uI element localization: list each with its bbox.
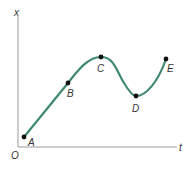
position-curve [24, 57, 166, 137]
point-b-marker [66, 81, 71, 86]
point-c-marker [99, 55, 104, 60]
point-d-marker [134, 94, 139, 99]
point-c-label: C [97, 63, 105, 74]
point-b-label: B [67, 88, 74, 99]
point-a-marker [22, 135, 27, 140]
point-e-label: E [167, 63, 174, 74]
y-axis-label: x [13, 7, 20, 18]
point-a-label: A [27, 137, 35, 148]
position-time-graph: x t O A B C D E [0, 0, 192, 171]
point-e-marker [164, 57, 169, 62]
point-d-label: D [132, 103, 139, 114]
x-axis-label: t [179, 142, 183, 153]
origin-label: O [11, 150, 19, 161]
